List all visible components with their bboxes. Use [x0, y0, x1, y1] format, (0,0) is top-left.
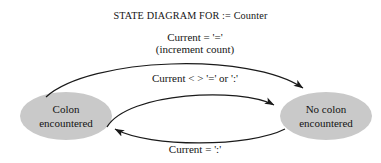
state-label-no-colon-encountered: No colon encountered	[280, 103, 372, 131]
transition-label-other-char: Current < > '=' or ':'	[120, 72, 270, 84]
transition-label-colon: Current = ':'	[125, 143, 265, 155]
transition-label-increment-line2: (increment count)	[105, 43, 285, 55]
state-label-no-colon-encountered-line1: No colon	[280, 103, 372, 117]
state-label-colon-encountered: Colon encountered	[20, 103, 112, 131]
transition-arc-other-char	[107, 95, 274, 127]
state-label-no-colon-encountered-line2: encountered	[280, 117, 372, 131]
state-diagram-canvas: STATE DIAGRAM FOR := Counter Current = '…	[0, 0, 381, 163]
state-label-colon-encountered-line2: encountered	[20, 117, 112, 131]
transition-label-increment: Current = '=' (increment count)	[105, 31, 285, 56]
state-label-colon-encountered-line1: Colon	[20, 103, 112, 117]
transition-label-increment-line1: Current = '='	[105, 31, 285, 43]
transition-label-colon-line1: Current = ':'	[125, 143, 265, 155]
diagram-title: STATE DIAGRAM FOR := Counter	[0, 10, 381, 21]
transition-label-other-char-line1: Current < > '=' or ':'	[120, 72, 270, 84]
transition-arc-colon	[115, 129, 285, 143]
